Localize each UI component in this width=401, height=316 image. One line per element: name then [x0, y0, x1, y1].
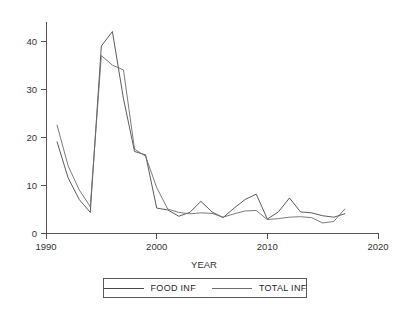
line-chart-plot: 010203040 1990200020102020 YEAR	[0, 0, 401, 316]
series-line-food-inf	[57, 32, 345, 220]
legend-label-food-inf: FOOD INF	[151, 283, 196, 293]
x-axis-ticks	[46, 233, 378, 239]
chart-container: 010203040 1990200020102020 YEAR FOOD INF…	[0, 0, 401, 316]
legend-swatch-food-inf-icon	[104, 288, 144, 289]
y-tick-label: 20	[26, 132, 37, 143]
x-tick-label: 2010	[257, 241, 278, 252]
legend-swatch-total-inf-icon	[212, 288, 252, 289]
x-axis-title: YEAR	[191, 259, 217, 270]
chart-legend: FOOD INF TOTAL INF	[103, 278, 307, 298]
y-tick-label: 10	[26, 180, 37, 191]
x-tick-label: 2000	[146, 241, 167, 252]
y-tick-label: 40	[26, 36, 37, 47]
y-tick-label: 30	[26, 84, 37, 95]
legend-label-total-inf: TOTAL INF	[259, 283, 307, 293]
y-axis-ticks	[41, 41, 46, 233]
series-line-total-inf	[57, 56, 345, 223]
legend-entry-food-inf: FOOD INF	[104, 283, 196, 293]
y-tick-label: 0	[32, 228, 37, 239]
y-axis-tick-labels: 010203040	[26, 36, 37, 239]
legend-entry-total-inf: TOTAL INF	[212, 283, 307, 293]
x-tick-label: 1990	[35, 241, 56, 252]
x-tick-label: 2020	[367, 241, 388, 252]
x-axis-tick-labels: 1990200020102020	[35, 241, 388, 252]
